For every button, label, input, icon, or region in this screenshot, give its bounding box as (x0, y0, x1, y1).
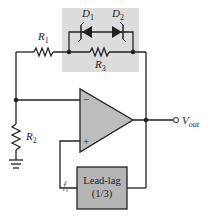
label-d1: D1 (82, 8, 94, 22)
vout-terminal (174, 118, 179, 123)
label-vout: Vout (182, 115, 199, 129)
label-r1: R1 (38, 31, 49, 45)
label-d2: D2 (112, 8, 124, 22)
label-minus: − (83, 94, 89, 105)
lead-lag-text: Lead-lag (1/3) (77, 167, 127, 209)
label-fr: fr (63, 180, 69, 194)
label-plus: + (83, 136, 89, 147)
label-r2: R2 (26, 131, 37, 145)
lead-lag-title: Lead-lag (77, 174, 127, 187)
lead-lag-ratio: (1/3) (77, 187, 127, 200)
resistor-r1 (34, 48, 53, 56)
resistor-r2 (12, 124, 20, 150)
label-r3: R3 (95, 59, 106, 73)
